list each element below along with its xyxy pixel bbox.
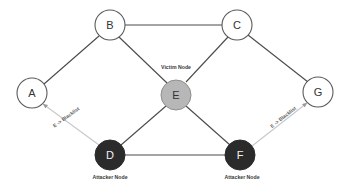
node-c[interactable]: C <box>222 10 252 40</box>
node-e-victim[interactable]: E <box>161 80 191 110</box>
edge-c-g <box>248 35 308 82</box>
node-g-label: G <box>314 86 323 98</box>
edge-a-b <box>44 36 99 84</box>
caption-victim-node: Victim Node <box>161 64 191 70</box>
node-f-attacker[interactable]: F <box>225 140 255 170</box>
node-a-label: A <box>28 87 36 99</box>
node-b[interactable]: B <box>95 10 125 40</box>
graph-canvas: E -> Blacklist E -> Blacklist Victim Nod… <box>0 0 349 192</box>
node-b-label: B <box>106 19 113 31</box>
node-d-attacker[interactable]: D <box>95 140 125 170</box>
node-e-label: E <box>172 89 179 101</box>
node-c-label: C <box>233 19 241 31</box>
caption-attacker-node-f: Attacker Node <box>224 174 259 180</box>
edge-e-f <box>186 106 230 145</box>
node-a[interactable]: A <box>17 78 47 108</box>
edge-b-e <box>119 37 167 83</box>
node-layer: A B C G E D <box>17 10 333 170</box>
edge-d-e <box>121 106 166 145</box>
node-d-label: D <box>106 149 114 161</box>
edge-label-blacklist-left: E -> Blacklist <box>52 105 81 128</box>
node-f-label: F <box>237 149 244 161</box>
caption-attacker-node-d: Attacker Node <box>92 174 127 180</box>
edge-label-blacklist-right: E -> Blacklist <box>269 105 298 129</box>
network-diagram: E -> Blacklist E -> Blacklist Victim Nod… <box>0 0 349 192</box>
edge-c-e <box>186 37 228 82</box>
node-g[interactable]: G <box>303 77 333 107</box>
edge-f-g-blacklist <box>252 103 307 146</box>
